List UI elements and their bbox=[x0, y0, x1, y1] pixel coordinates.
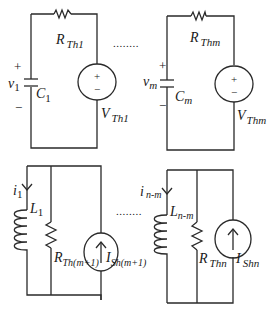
resistor-rthm-icon bbox=[191, 12, 206, 20]
top-left-circuit: + − RTh1 C1 + v1 − VTh1 bbox=[8, 10, 129, 148]
resistor-rthm1-icon bbox=[46, 222, 56, 248]
circuit-diagram: + − RTh1 C1 + v1 − VTh1 ........ + − RTh… bbox=[0, 0, 275, 315]
bottom-ellipsis: ........ bbox=[116, 205, 142, 217]
label-c1: C1 bbox=[36, 86, 51, 104]
inductor-lnm-icon bbox=[154, 215, 167, 258]
label-i1: i1 bbox=[13, 183, 22, 200]
label-inm: in-m bbox=[140, 184, 161, 200]
label-cm: Cm bbox=[175, 89, 192, 106]
label-v1: v1 bbox=[8, 76, 20, 93]
label-l1: L1 bbox=[29, 201, 43, 218]
voltage-source-vthm-icon: + − bbox=[215, 66, 253, 102]
label-rthn: RThn bbox=[198, 251, 227, 269]
capacitor-cm-icon bbox=[160, 80, 174, 87]
label-lnm: Ln-m bbox=[169, 204, 193, 221]
current-source-ishn-icon bbox=[215, 220, 251, 258]
svg-text:+: + bbox=[94, 70, 100, 82]
resistor-rthn-icon bbox=[192, 222, 202, 250]
inductor-l1-icon bbox=[14, 210, 27, 255]
label-vm: vm bbox=[143, 74, 157, 91]
resistor-rth1-icon bbox=[54, 10, 71, 18]
bottom-left-circuit: i1 L1 RTh(m+1) ISh(m+1) bbox=[13, 166, 147, 300]
top-ellipsis: ........ bbox=[113, 37, 139, 49]
label-v1-plus: + bbox=[14, 59, 21, 74]
svg-text:−: − bbox=[231, 86, 237, 98]
label-ishm1: ISh(m+1) bbox=[105, 250, 147, 269]
label-vth1: VTh1 bbox=[101, 106, 129, 124]
label-vm-plus: + bbox=[159, 58, 166, 73]
label-vthm: VThm bbox=[237, 108, 266, 126]
voltage-source-vth1-icon: + − bbox=[78, 64, 116, 100]
svg-text:+: + bbox=[231, 73, 237, 85]
top-right-circuit: + − RThm Cm + vm − VThm bbox=[143, 12, 266, 150]
label-rth1: RTh1 bbox=[55, 32, 84, 50]
label-rthm1: RTh(m+1) bbox=[53, 250, 99, 269]
capacitor-c1-icon bbox=[24, 79, 38, 86]
label-v1-minus: − bbox=[15, 100, 22, 115]
svg-text:−: − bbox=[94, 83, 100, 95]
label-vm-minus: − bbox=[159, 98, 166, 113]
label-rthm: RThm bbox=[189, 30, 220, 48]
bottom-right-circuit: in-m Ln-m RThn IShn bbox=[140, 170, 260, 303]
label-ishn: IShn bbox=[235, 251, 260, 269]
